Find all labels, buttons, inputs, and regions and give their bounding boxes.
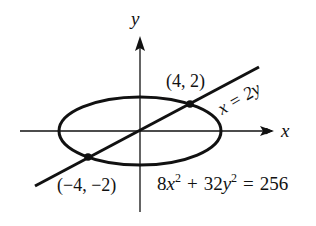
line-equation-label: x = 2y — [213, 78, 264, 119]
eq-rhs: 256 — [260, 173, 289, 194]
eq-exp-2: 2 — [231, 171, 237, 185]
y-axis-label: y — [129, 8, 140, 29]
eq-equals: = — [243, 173, 254, 194]
eq-plus: + — [187, 173, 198, 194]
ellipse-equation-label: 8x2+32y2=256 — [157, 171, 288, 194]
eq-exp-1: 2 — [175, 171, 181, 185]
line-label-text: x = 2y — [213, 78, 264, 119]
ellipse-line-diagram: y x (4, 2) (−4, −2) x = 2y 8x2+32y2=256 — [0, 0, 316, 226]
intersection-point-neg4-neg2 — [84, 153, 92, 161]
eq-coef-2: 32 — [204, 173, 223, 194]
eq-coef-1: 8 — [157, 173, 167, 194]
point-label-neg4-neg2: (−4, −2) — [57, 175, 116, 196]
line-x-equals-2y — [35, 67, 259, 186]
point-label-4-2: (4, 2) — [166, 71, 205, 92]
eq-var-2: y — [221, 173, 232, 194]
x-axis-label: x — [280, 120, 290, 141]
intersection-point-4-2 — [186, 100, 194, 108]
